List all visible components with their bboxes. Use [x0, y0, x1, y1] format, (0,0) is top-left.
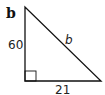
- problem-label: b: [6, 5, 16, 21]
- right-angle-marker: [25, 71, 36, 81]
- vertical-leg-label: 60: [8, 38, 23, 52]
- triangle-diagram: b 60 b 21: [0, 0, 105, 95]
- horizontal-leg-label: 21: [55, 83, 70, 95]
- hypotenuse-label: b: [65, 33, 73, 47]
- triangle: [25, 7, 101, 81]
